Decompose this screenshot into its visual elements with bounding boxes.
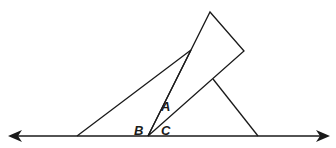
label-a: A xyxy=(160,99,170,114)
geometry-diagram: A B C xyxy=(0,0,336,148)
diagram-svg: A B C xyxy=(0,0,336,148)
label-b: B xyxy=(134,123,143,138)
right-segment xyxy=(213,79,258,136)
rotated-rectangle xyxy=(148,12,244,136)
label-c: C xyxy=(161,123,171,138)
